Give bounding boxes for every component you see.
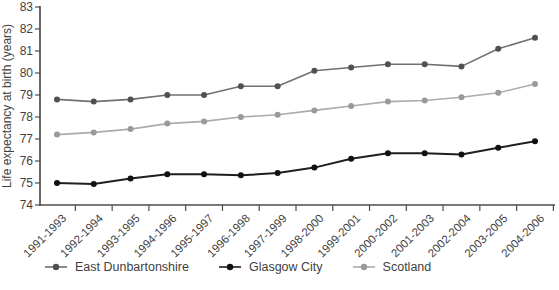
legend-marker-dot xyxy=(360,264,366,270)
series-layer xyxy=(54,35,538,187)
y-axis-title: Life expectancy at birth (years) xyxy=(0,24,14,188)
data-point-east-dunbartonshire-3 xyxy=(164,92,170,98)
legend-marker-dot xyxy=(227,264,233,270)
data-point-east-dunbartonshire-9 xyxy=(385,61,391,67)
chart-plot-area: Life expectancy at birth (years) 8382818… xyxy=(0,0,559,258)
data-point-glasgow-city-11 xyxy=(458,151,464,157)
legend-label: Scotland xyxy=(383,261,432,274)
data-point-glasgow-city-1 xyxy=(91,181,97,187)
legend-marker-icon xyxy=(45,262,67,272)
y-tick-label: 77 xyxy=(20,132,34,146)
y-tick-label: 81 xyxy=(20,44,34,58)
data-point-scotland-12 xyxy=(495,90,501,96)
data-point-scotland-7 xyxy=(311,107,317,113)
data-point-east-dunbartonshire-1 xyxy=(91,99,97,105)
data-point-east-dunbartonshire-5 xyxy=(238,83,244,89)
data-point-scotland-11 xyxy=(458,94,464,100)
data-point-east-dunbartonshire-6 xyxy=(275,83,281,89)
data-point-scotland-6 xyxy=(275,112,281,118)
data-point-east-dunbartonshire-8 xyxy=(348,65,354,71)
data-point-glasgow-city-2 xyxy=(128,176,134,182)
data-point-scotland-3 xyxy=(164,121,170,127)
data-point-glasgow-city-7 xyxy=(311,165,317,171)
y-tick-label: 76 xyxy=(20,154,34,168)
legend-marker-icon xyxy=(219,262,241,272)
legend-label: Glasgow City xyxy=(249,261,323,274)
y-tick-label: 74 xyxy=(20,198,34,212)
data-point-east-dunbartonshire-12 xyxy=(495,46,501,52)
legend-item-scotland: Scotland xyxy=(353,261,432,274)
legend-marker-dot xyxy=(53,264,59,270)
data-point-glasgow-city-6 xyxy=(275,170,281,176)
y-tick-label: 80 xyxy=(20,66,34,80)
y-tick-label: 82 xyxy=(20,22,34,36)
data-point-scotland-2 xyxy=(128,126,134,132)
data-point-scotland-10 xyxy=(422,98,428,104)
data-point-scotland-5 xyxy=(238,114,244,120)
y-tick-label: 83 xyxy=(20,0,34,14)
data-point-glasgow-city-9 xyxy=(385,150,391,156)
data-point-glasgow-city-10 xyxy=(422,150,428,156)
data-point-east-dunbartonshire-13 xyxy=(532,35,538,41)
data-point-glasgow-city-4 xyxy=(201,171,207,177)
data-point-scotland-4 xyxy=(201,118,207,124)
data-point-glasgow-city-8 xyxy=(348,156,354,162)
data-point-glasgow-city-3 xyxy=(164,171,170,177)
legend-item-glasgow-city: Glasgow City xyxy=(219,261,323,274)
data-point-scotland-9 xyxy=(385,99,391,105)
data-point-east-dunbartonshire-10 xyxy=(422,61,428,67)
data-point-glasgow-city-0 xyxy=(54,180,60,186)
legend-item-east-dunbartonshire: East Dunbartonshire xyxy=(45,261,189,274)
data-point-east-dunbartonshire-0 xyxy=(54,96,60,102)
data-point-east-dunbartonshire-4 xyxy=(201,92,207,98)
series-line-east-dunbartonshire xyxy=(57,38,535,102)
data-point-scotland-8 xyxy=(348,103,354,109)
data-point-glasgow-city-13 xyxy=(532,138,538,144)
data-point-east-dunbartonshire-2 xyxy=(128,96,134,102)
data-point-scotland-0 xyxy=(54,132,60,138)
y-tick-label: 75 xyxy=(20,176,34,190)
y-tick-label: 78 xyxy=(20,110,34,124)
data-point-east-dunbartonshire-7 xyxy=(311,68,317,74)
data-point-east-dunbartonshire-11 xyxy=(458,63,464,69)
data-point-scotland-1 xyxy=(91,129,97,135)
data-point-scotland-13 xyxy=(532,81,538,87)
data-point-glasgow-city-5 xyxy=(238,172,244,178)
data-point-glasgow-city-12 xyxy=(495,145,501,151)
life-expectancy-chart-figure: Life expectancy at birth (years) 8382818… xyxy=(0,0,559,290)
y-tick-label: 79 xyxy=(20,88,34,102)
chart-legend: East DunbartonshireGlasgow CityScotland xyxy=(45,261,431,274)
legend-marker-icon xyxy=(353,262,375,272)
axes-layer: 838281807978777675741991-19931992-199419… xyxy=(20,0,555,258)
legend-label: East Dunbartonshire xyxy=(75,261,189,274)
